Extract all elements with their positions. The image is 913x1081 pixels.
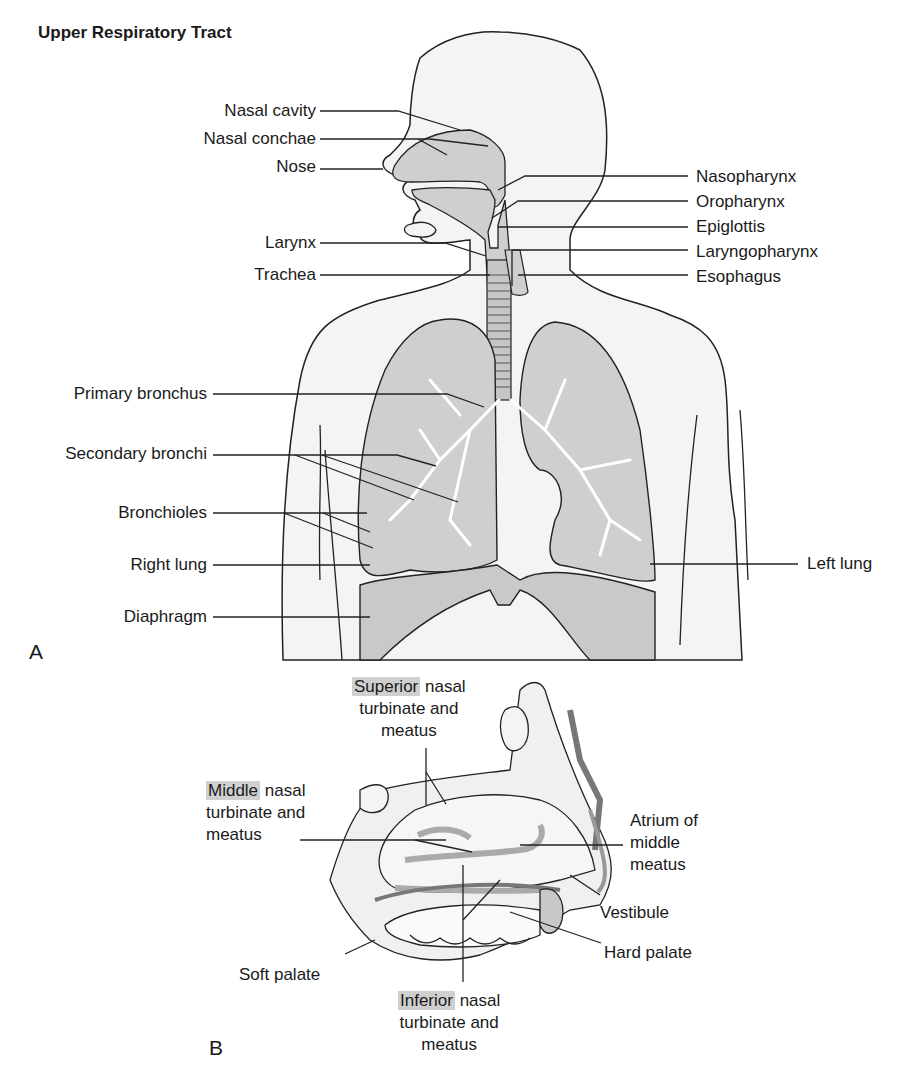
highlight-superior: Superior [352,677,420,696]
diagram-title: Upper Respiratory Tract [38,23,232,43]
respiratory-diagram [0,0,913,1081]
label-atrium-middle-meatus: Atrium of middle meatus [630,810,698,876]
highlight-inferior: Inferior [398,991,455,1010]
panel-letter-a: A [29,640,43,664]
label-bronchioles: Bronchioles [118,504,207,521]
body-outline [282,32,742,660]
label-nasal-cavity: Nasal cavity [224,102,316,119]
label-hard-palate: Hard palate [604,944,692,961]
label-diaphragm: Diaphragm [124,608,207,625]
label-nasopharynx: Nasopharynx [696,168,796,185]
label-middle-turbinate: Middle nasal turbinate and meatus [206,780,305,846]
label-oropharynx: Oropharynx [696,193,785,210]
label-left-lung: Left lung [807,555,872,572]
label-esophagus: Esophagus [696,268,781,285]
tongue-lip [405,222,436,237]
label-right-lung: Right lung [130,556,207,573]
label-secondary-bronchi: Secondary bronchi [65,445,207,462]
label-larynx: Larynx [265,234,316,251]
label-primary-bronchus: Primary bronchus [74,385,207,402]
label-nose: Nose [276,158,316,175]
label-inferior-turbinate: Inferior nasal turbinate and meatus [398,990,500,1056]
label-epiglottis: Epiglottis [696,218,765,235]
label-soft-palate: Soft palate [239,966,320,983]
panel-letter-b: B [209,1036,223,1060]
label-trachea: Trachea [254,266,316,283]
label-laryngopharynx: Laryngopharynx [696,243,818,260]
label-vestibule: Vestibule [600,904,669,921]
label-superior-turbinate: Superior nasal turbinate and meatus [352,676,466,742]
highlight-middle: Middle [206,781,260,800]
label-nasal-conchae: Nasal conchae [204,130,316,147]
